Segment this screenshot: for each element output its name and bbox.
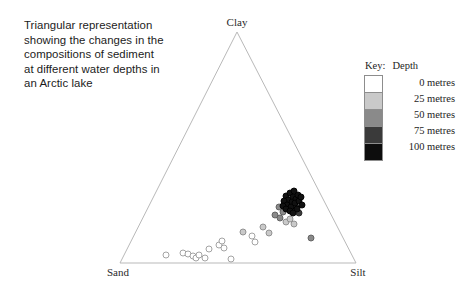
vertex-label-silt: Silt: [350, 266, 365, 278]
triangle-outline: [120, 32, 356, 263]
legend-label: 25 metres: [387, 91, 456, 107]
data-point: [249, 233, 255, 239]
data-point: [298, 194, 304, 200]
legend: Key:Depth 0 metres25 metres50 metres75 m…: [364, 60, 456, 161]
legend-swatch: [365, 126, 382, 143]
ternary-diagram-page: Triangular representation showing the ch…: [0, 0, 458, 289]
legend-label: 75 metres: [387, 123, 456, 139]
vertex-label-sand: Sand: [107, 266, 130, 278]
data-point: [221, 245, 227, 251]
data-point: [219, 238, 225, 244]
data-point: [290, 210, 296, 216]
legend-label: 0 metres: [387, 75, 456, 91]
legend-body: 0 metres25 metres50 metres75 metres100 m…: [364, 75, 456, 161]
data-points-layer: [163, 188, 314, 262]
data-point: [287, 216, 293, 222]
data-point: [206, 246, 212, 252]
legend-title-text: Depth: [392, 60, 418, 71]
data-point: [277, 215, 283, 221]
data-point: [252, 239, 258, 245]
legend-label: 100 metres: [387, 139, 456, 155]
legend-title: Key:Depth: [364, 60, 456, 71]
legend-swatch: [365, 92, 382, 109]
data-point: [240, 229, 246, 235]
legend-labels: 0 metres25 metres50 metres75 metres100 m…: [383, 75, 456, 155]
data-point: [291, 221, 297, 227]
data-point: [266, 230, 272, 236]
legend-label: 50 metres: [387, 107, 456, 123]
data-point: [228, 256, 234, 262]
data-point: [299, 202, 305, 208]
legend-key-word: Key:: [365, 60, 385, 71]
legend-swatch: [365, 143, 382, 160]
vertex-label-clay: Clay: [227, 16, 248, 28]
legend-gradient-bar: [364, 75, 383, 161]
legend-swatch: [365, 76, 382, 92]
data-point: [308, 235, 314, 241]
data-point: [163, 252, 169, 258]
data-point: [260, 224, 266, 230]
data-point: [196, 252, 202, 258]
legend-swatch: [365, 109, 382, 126]
data-point: [202, 255, 208, 261]
